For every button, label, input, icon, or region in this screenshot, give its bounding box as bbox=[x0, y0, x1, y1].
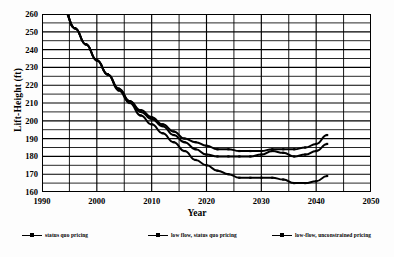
series-marker-1 bbox=[205, 154, 207, 156]
series-marker-2 bbox=[140, 114, 142, 116]
y-tick-label: 170 bbox=[12, 170, 38, 178]
y-tick-label: 260 bbox=[12, 10, 38, 18]
chart-figure: Lift-Height (ft) 16017018019020021022023… bbox=[0, 0, 394, 257]
y-axis-tick-labels: 160170180190200210220230240250260 bbox=[8, 0, 38, 257]
series-marker-2 bbox=[194, 159, 196, 161]
series-marker-1 bbox=[315, 150, 317, 152]
series-marker-1 bbox=[227, 155, 229, 157]
line-square-marker bbox=[148, 232, 168, 238]
series-marker-0 bbox=[194, 141, 196, 143]
chart-legend: status quo pricinglow flow, status quo p… bbox=[0, 232, 394, 246]
series-marker-0 bbox=[282, 148, 284, 150]
series-marker-0 bbox=[249, 150, 251, 152]
series-marker-0 bbox=[315, 143, 317, 145]
series-marker-1 bbox=[326, 143, 328, 145]
series-marker-0 bbox=[238, 150, 240, 152]
series-marker-2 bbox=[227, 173, 229, 175]
series-marker-2 bbox=[260, 177, 262, 179]
series-marker-2 bbox=[205, 164, 207, 166]
x-axis-title: Year bbox=[0, 208, 394, 218]
series-marker-0 bbox=[293, 148, 295, 150]
series-marker-0 bbox=[326, 134, 328, 136]
series-marker-2 bbox=[129, 102, 131, 104]
y-tick-label: 200 bbox=[12, 117, 38, 125]
series-marker-0 bbox=[173, 130, 175, 132]
series-marker-2 bbox=[183, 150, 185, 152]
series-marker-2 bbox=[238, 177, 240, 179]
series-marker-1 bbox=[140, 111, 142, 113]
y-tick-label: 240 bbox=[12, 46, 38, 54]
series-marker-1 bbox=[238, 155, 240, 157]
series-marker-1 bbox=[216, 155, 218, 157]
legend-item[interactable]: low-flow, unconstrained pricing bbox=[272, 232, 371, 238]
legend-item[interactable]: low flow, status quo pricing bbox=[148, 232, 237, 238]
x-tick-label: 2000 bbox=[77, 196, 117, 206]
series-marker-2 bbox=[249, 177, 251, 179]
x-tick-label: 1990 bbox=[22, 196, 62, 206]
legend-label: status quo pricing bbox=[45, 232, 88, 238]
series-marker-1 bbox=[151, 118, 153, 120]
series-marker-0 bbox=[227, 148, 229, 150]
x-tick-label: 2020 bbox=[187, 196, 227, 206]
series-marker-0 bbox=[205, 145, 207, 147]
y-tick-label: 160 bbox=[12, 188, 38, 196]
series-marker-2 bbox=[162, 132, 164, 134]
legend-label: low-flow, unconstrained pricing bbox=[295, 232, 371, 238]
line-square-marker bbox=[272, 232, 292, 238]
series-marker-2 bbox=[107, 73, 109, 75]
series-marker-1 bbox=[293, 155, 295, 157]
series-marker-0 bbox=[304, 146, 306, 148]
series-marker-2 bbox=[173, 141, 175, 143]
series-marker-2 bbox=[96, 59, 98, 61]
series-marker-2 bbox=[315, 180, 317, 182]
plot-area bbox=[42, 14, 371, 192]
x-tick-label: 2030 bbox=[241, 196, 281, 206]
series-marker-0 bbox=[260, 150, 262, 152]
series-marker-2 bbox=[293, 182, 295, 184]
series-line-2 bbox=[64, 14, 327, 183]
y-tick-label: 180 bbox=[12, 152, 38, 160]
y-tick-label: 210 bbox=[12, 99, 38, 107]
series-marker-1 bbox=[173, 134, 175, 136]
series-marker-1 bbox=[194, 148, 196, 150]
series-marker-1 bbox=[304, 154, 306, 156]
series-marker-1 bbox=[282, 152, 284, 154]
series-marker-2 bbox=[74, 27, 76, 29]
series-marker-1 bbox=[183, 141, 185, 143]
series-marker-2 bbox=[85, 43, 87, 45]
x-tick-label: 2040 bbox=[296, 196, 336, 206]
x-tick-label: 2010 bbox=[132, 196, 172, 206]
y-tick-label: 230 bbox=[12, 63, 38, 71]
series-marker-2 bbox=[271, 177, 273, 179]
series-marker-0 bbox=[216, 148, 218, 150]
y-tick-label: 220 bbox=[12, 81, 38, 89]
line-square-marker bbox=[22, 232, 42, 238]
legend-item[interactable]: status quo pricing bbox=[22, 232, 88, 238]
series-marker-2 bbox=[282, 178, 284, 180]
series-marker-0 bbox=[183, 138, 185, 140]
series-marker-1 bbox=[271, 150, 273, 152]
series-marker-1 bbox=[260, 154, 262, 156]
series-marker-1 bbox=[249, 155, 251, 157]
series-line-0 bbox=[64, 14, 327, 151]
x-tick-label: 2050 bbox=[351, 196, 391, 206]
chart-svg bbox=[42, 14, 371, 192]
series-marker-2 bbox=[151, 123, 153, 125]
legend-label: low flow, status quo pricing bbox=[171, 232, 237, 238]
series-marker-2 bbox=[304, 182, 306, 184]
series-marker-2 bbox=[326, 175, 328, 177]
series-marker-1 bbox=[162, 125, 164, 127]
series-marker-2 bbox=[216, 170, 218, 172]
y-tick-label: 250 bbox=[12, 28, 38, 36]
series-marker-2 bbox=[118, 89, 120, 91]
y-tick-label: 190 bbox=[12, 135, 38, 143]
